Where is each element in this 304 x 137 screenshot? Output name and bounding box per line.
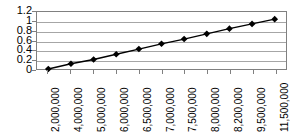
x-axis-tick-label: 11,500,000 [280,83,290,132]
y-axis-tickmark [32,11,36,12]
line-chart: 00.20.40.60.811.2 2,000,0004,000,0005,00… [0,0,304,137]
y-axis-tick-label: 0.2 [17,54,32,65]
data-point-marker [158,41,165,48]
x-axis-tick-label: 2,000,000 [51,88,61,133]
x-axis-tick-label: 8,000,000 [211,88,221,133]
data-point-marker [249,21,256,28]
data-point-marker [203,31,210,38]
y-axis-tick-label: 1.2 [17,5,32,16]
y-axis-tickmark [32,31,36,32]
data-point-marker [181,36,188,43]
data-point-marker [90,56,97,63]
data-series [37,12,286,69]
x-axis-tick-label: 7,000,000 [166,88,176,133]
y-axis: 00.20.40.60.811.2 [0,6,34,72]
data-point-marker [226,25,233,32]
plot-area [36,11,287,70]
x-axis: 2,000,0004,000,0005,000,0006,000,0006,50… [36,74,287,137]
x-axis-tick-label: 5,000,000 [97,88,107,133]
x-axis-tick-label: 6,000,000 [120,88,130,133]
y-axis-tickmark [32,41,36,42]
x-axis-tick-label: 6,500,000 [143,88,153,133]
y-axis-tickmark [32,70,36,71]
y-axis-tickmark [32,60,36,61]
y-axis-tick-label: 0.8 [17,25,32,36]
x-axis-tick-label: 7,500,000 [188,88,198,133]
y-axis-tickmark [32,50,36,51]
x-axis-tick-label: 4,000,000 [74,88,84,133]
y-axis-tick-label: 0.6 [17,35,32,46]
y-axis-tickmark [32,21,36,22]
data-point-marker [113,51,120,58]
data-point-marker [68,60,75,67]
x-axis-tick-label: 8,200,000 [234,88,244,133]
data-point-marker [135,46,142,53]
x-axis-tick-label: 9,500,000 [257,88,267,133]
data-point-marker [271,16,278,23]
y-axis-tick-label: 0.4 [17,44,32,55]
